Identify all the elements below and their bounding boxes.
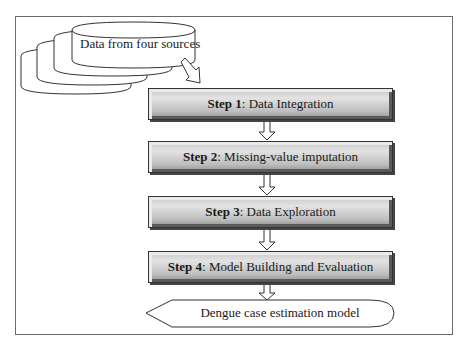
step-3-number: Step 3 (205, 204, 239, 220)
step-1-number: Step 1 (208, 96, 242, 112)
source-label: Data from four sources (80, 36, 200, 52)
step-1-box: Step 1 : Data Integration (148, 88, 393, 120)
diagram-shapes (0, 0, 466, 348)
step-2-box: Step 2 : Missing-value imputation (148, 141, 393, 173)
step-2-number: Step 2 (183, 149, 217, 165)
step-1-title: : Data Integration (242, 96, 334, 112)
step-2-title: : Missing-value imputation (217, 149, 358, 165)
database-cylinders-icon (21, 22, 195, 94)
step-3-title: : Data Exploration (240, 204, 336, 220)
output-label: Dengue case estimation model (190, 305, 370, 321)
step-4-box: Step 4 : Model Building and Evaluation (148, 251, 393, 283)
step-3-box: Step 3 : Data Exploration (148, 196, 393, 228)
step-4-title: : Model Building and Evaluation (202, 259, 373, 275)
step-4-number: Step 4 (168, 259, 202, 275)
